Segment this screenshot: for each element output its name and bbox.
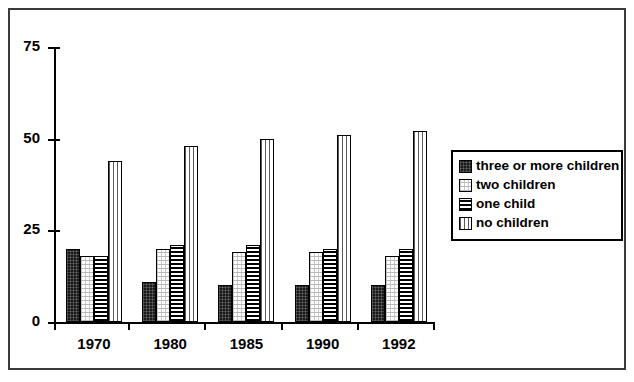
bar-1990-horizontal-lines [323, 249, 337, 322]
y-tick-75: 75 [48, 47, 60, 49]
legend-swatch-vertical-lines [459, 217, 472, 230]
bar-1970-solid-black [66, 249, 80, 322]
bar-1992-solid-black [371, 285, 385, 322]
bar-1985-horizontal-lines [246, 245, 260, 322]
legend-item-0: three or more children [459, 157, 615, 175]
bar-1985-solid-black [218, 285, 232, 322]
bar-1970-horizontal-lines [94, 256, 108, 322]
y-tick-label: 0 [32, 313, 40, 329]
y-tick-50: 50 [48, 139, 60, 141]
y-tick-25: 25 [48, 230, 60, 232]
bar-1980-solid-black [142, 282, 156, 322]
x-axis-label-1992: 1992 [382, 335, 415, 352]
y-tick-label: 50 [23, 130, 40, 146]
x-axis-label-1990: 1990 [306, 335, 339, 352]
legend-swatch-horizontal-lines [459, 198, 472, 211]
x-axis-label-1985: 1985 [230, 335, 263, 352]
y-tick-label: 75 [23, 38, 40, 54]
bar-1980-fine-dots [156, 249, 170, 322]
legend-item-1: two children [459, 176, 615, 194]
legend-label: no children [476, 216, 549, 230]
bar-1990-fine-dots [309, 252, 323, 322]
x-tick-1992 [433, 322, 435, 330]
plot-area: 0255075 19701980198519901992 [54, 39, 435, 323]
bar-1970-fine-dots [80, 256, 94, 322]
bar-1992-vertical-lines [413, 131, 427, 322]
x-axis-label-1970: 1970 [77, 335, 110, 352]
y-axis-line [54, 47, 56, 323]
x-tick-1985 [281, 322, 283, 330]
legend-item-2: one child [459, 195, 615, 213]
bar-1990-solid-black [295, 285, 309, 322]
bar-1980-vertical-lines [184, 146, 198, 322]
x-tick-1980 [204, 322, 206, 330]
bar-1985-fine-dots [232, 252, 246, 322]
legend-label: one child [476, 197, 535, 211]
bar-1970-vertical-lines [108, 161, 122, 322]
x-tick-1990 [357, 322, 359, 330]
legend-label: three or more children [476, 159, 619, 173]
y-tick-label: 25 [23, 221, 40, 237]
bar-1992-fine-dots [385, 256, 399, 322]
legend-swatch-solid-black [459, 160, 472, 173]
legend-swatch-fine-dots [459, 179, 472, 192]
x-tick-origin [54, 322, 56, 330]
legend-label: two children [476, 178, 556, 192]
x-tick-1970 [128, 322, 130, 330]
legend-item-3: no children [459, 214, 615, 232]
x-axis-label-1980: 1980 [154, 335, 187, 352]
x-axis-line [54, 322, 435, 324]
chart-legend: three or more childrentwo childrenone ch… [451, 150, 623, 241]
bar-1990-vertical-lines [337, 135, 351, 322]
bar-1985-vertical-lines [260, 139, 274, 322]
chart-figure: 0255075 19701980198519901992 three or mo… [8, 8, 626, 370]
bar-1992-horizontal-lines [399, 249, 413, 322]
bar-1980-horizontal-lines [170, 245, 184, 322]
